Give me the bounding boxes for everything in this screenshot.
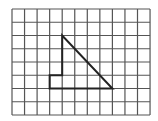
grid-diagram [0, 0, 158, 121]
grid-lines [12, 9, 150, 115]
